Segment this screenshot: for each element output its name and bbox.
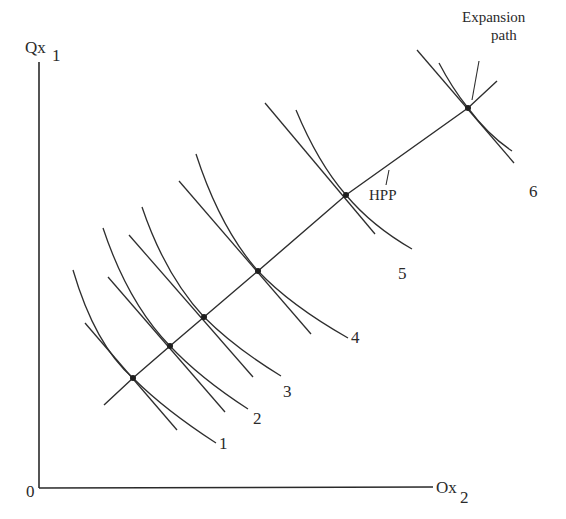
tangency-point-6 (465, 105, 471, 111)
isoquant-label-2: 2 (253, 409, 262, 428)
y-axis-label: Qx (25, 38, 46, 57)
isocost-line-2 (108, 277, 225, 412)
isoquant-4 (196, 154, 348, 338)
x-axis (39, 487, 433, 488)
origin-label: 0 (26, 482, 35, 501)
tangency-point-4 (255, 268, 261, 274)
tangency-point-3 (201, 314, 207, 320)
isoquant-label-3: 3 (283, 382, 292, 401)
isoquant-3 (142, 207, 281, 376)
x-axis-label: Ox (436, 478, 457, 497)
isoquant-label-1: 1 (219, 434, 228, 453)
isoquant-1 (73, 270, 216, 443)
isoquant-5 (296, 110, 412, 249)
isocost-line-3 (129, 235, 253, 377)
expansion-path-label-line1: Expansion (462, 9, 526, 25)
tangency-point-5 (343, 192, 349, 198)
expansion-path-line (104, 81, 497, 405)
isocost-line-5 (265, 103, 375, 234)
tangency-point-2 (167, 343, 173, 349)
isoquant-label-5: 5 (398, 264, 407, 283)
y-axis-subscript: 1 (52, 46, 61, 65)
expansion-path-label-line2: path (491, 27, 517, 43)
isoquant-label-4: 4 (351, 328, 360, 347)
isoquant-expansion-path-diagram: Qx 1 Ox 2 0 Expansion path HPP 1 2 3 4 5… (0, 0, 566, 519)
tangency-point-1 (130, 375, 136, 381)
isoquant-label-6: 6 (529, 182, 538, 201)
isoquant-6 (439, 63, 512, 151)
hpp-label: HPP (369, 187, 397, 203)
expansion-path-pointer (472, 61, 479, 100)
isoquant-2 (103, 228, 248, 409)
hpp-pointer (386, 170, 389, 185)
x-axis-subscript: 2 (460, 488, 469, 507)
